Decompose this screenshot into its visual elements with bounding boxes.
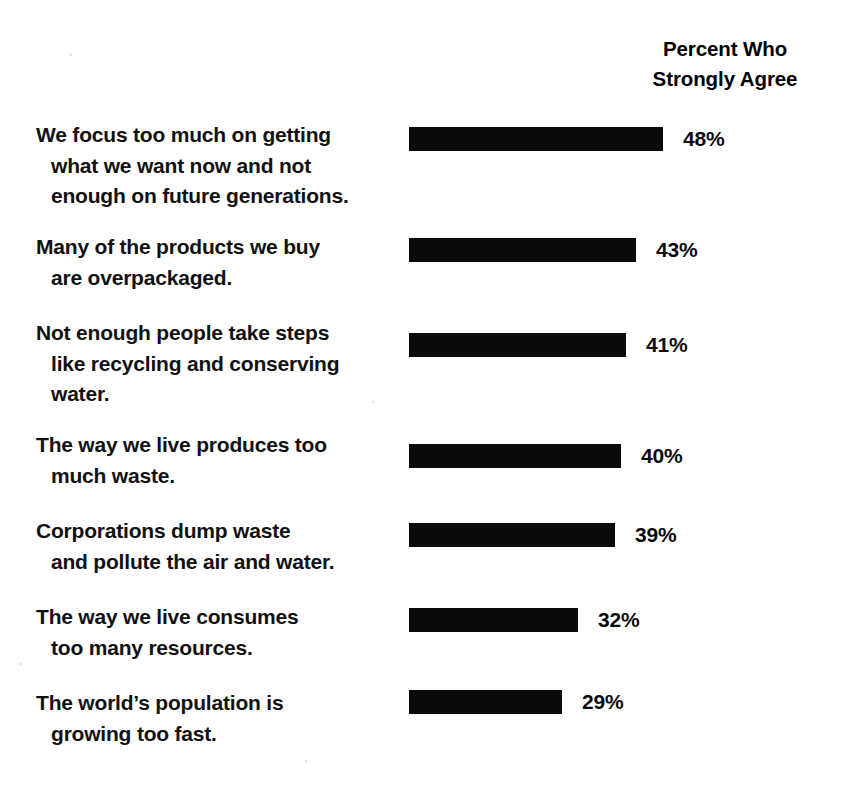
bar-category-label: Not enough people take stepslike recycli…	[36, 318, 401, 410]
bar	[409, 127, 663, 151]
bar	[409, 238, 636, 262]
bar-value-label: 39%	[635, 523, 676, 547]
bar-category-label-line: The way we live produces too	[36, 430, 401, 461]
bar-category-label-line: like recycling and conserving	[36, 349, 401, 380]
bar-category-label-line: Not enough people take steps	[36, 318, 401, 349]
bar	[409, 523, 615, 547]
bar-category-label: The way we live consumestoo many resourc…	[36, 602, 401, 663]
scan-speckle	[305, 760, 307, 762]
bar-category-label: The way we live produces toomuch waste.	[36, 430, 401, 491]
bar-category-label-line: are overpackaged.	[36, 263, 401, 294]
scan-speckle	[20, 663, 22, 665]
bar-category-label-line: The world’s population is	[36, 688, 401, 719]
bar-category-label: The world’s population isgrowing too fas…	[36, 688, 401, 749]
bar-value-label: 32%	[598, 608, 639, 632]
bar-category-label-line: Corporations dump waste	[36, 516, 401, 547]
bar-track: 43%	[409, 238, 697, 262]
bar-track: 39%	[409, 523, 676, 547]
bar-value-label: 48%	[683, 127, 724, 151]
chart-rows: We focus too much on gettingwhat we want…	[0, 0, 851, 789]
bar-value-label: 43%	[656, 238, 697, 262]
bar-value-label: 41%	[646, 333, 687, 357]
bar-category-label-line: The way we live consumes	[36, 602, 401, 633]
bar-track: 41%	[409, 333, 687, 357]
bar-category-label-line: enough on future generations.	[36, 181, 401, 212]
bar	[409, 608, 578, 632]
bar-value-label: 40%	[641, 444, 682, 468]
bar-category-label-line: Many of the products we buy	[36, 232, 401, 263]
bar-category-label-line: and pollute the air and water.	[36, 547, 401, 578]
bar-category-label-line: what we want now and not	[36, 151, 401, 182]
bar-category-label-line: growing too fast.	[36, 719, 401, 750]
bar-chart: Percent Who Strongly Agree We focus too …	[0, 0, 851, 789]
bar-category-label-line: We focus too much on getting	[36, 120, 401, 151]
bar-track: 32%	[409, 608, 639, 632]
bar-track: 29%	[409, 690, 623, 714]
bar-value-label: 29%	[582, 690, 623, 714]
scan-speckle	[372, 401, 374, 403]
bar	[409, 444, 621, 468]
bar	[409, 333, 626, 357]
bar-category-label-line: too many resources.	[36, 633, 401, 664]
bar-category-label-line: much waste.	[36, 461, 401, 492]
bar-track: 40%	[409, 444, 682, 468]
scan-speckle	[70, 54, 72, 56]
bar-category-label-line: water.	[36, 379, 401, 410]
bar-category-label: Many of the products we buyare overpacka…	[36, 232, 401, 293]
bar-category-label: Corporations dump wasteand pollute the a…	[36, 516, 401, 577]
bar	[409, 690, 562, 714]
bar-category-label: We focus too much on gettingwhat we want…	[36, 120, 401, 212]
bar-track: 48%	[409, 127, 724, 151]
